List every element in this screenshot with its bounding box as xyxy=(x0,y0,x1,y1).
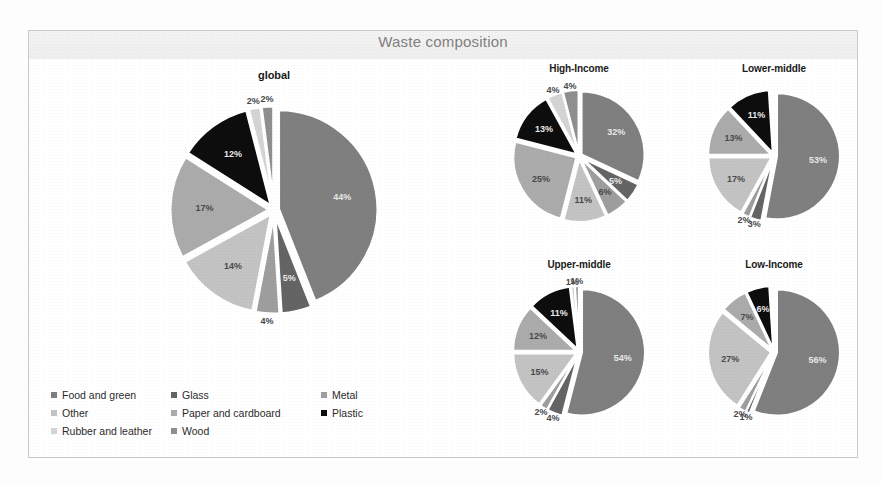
pie-panel-low-income: Low-Income 56%1%2%27%7%6% xyxy=(674,259,874,434)
pie-panel-upper-middle: Upper-middle 54%4%2%15%12%11%1%1% xyxy=(479,259,679,434)
legend-item[interactable]: Metal xyxy=(321,389,411,401)
legend-label: Metal xyxy=(332,389,358,401)
pie-slice-label: 17% xyxy=(727,174,745,184)
legend-item[interactable]: Plastic xyxy=(321,407,411,419)
legend-swatch-icon xyxy=(171,392,177,398)
pie-slice-label: 2% xyxy=(535,407,548,417)
pie-chart-global[interactable]: 44%5%4%14%17%12%2%2% xyxy=(129,81,419,339)
pie-svg: 54%4%2%15%12%11%1%1% xyxy=(497,270,661,434)
legend-swatch-icon xyxy=(51,410,57,416)
legend: Food and greenGlassMetalOtherPaper and c… xyxy=(51,389,421,437)
pie-panel-lower-middle: Lower-middle 53%3%2%17%13%11% xyxy=(674,63,874,238)
pie-slice-label: 25% xyxy=(532,174,550,184)
pie-slice-label: 14% xyxy=(224,261,242,271)
legend-item[interactable]: Paper and cardboard xyxy=(171,407,321,419)
pie-slice-label: 2% xyxy=(260,94,273,104)
pie-caption-upper-middle: Upper-middle xyxy=(479,259,679,270)
pie-slice-label: 5% xyxy=(283,273,296,283)
pie-panel-high-income: High-Income 32%5%6%11%25%13%4%4% xyxy=(479,63,679,238)
pie-panel-global: global 44%5%4%14%17%12%2%2% xyxy=(129,69,419,339)
pie-slice-label: 6% xyxy=(598,187,611,197)
pie-slice-label: 6% xyxy=(756,304,769,314)
legend-label: Wood xyxy=(182,425,209,437)
pie-slice-label: 1% xyxy=(570,276,583,286)
pie-slice-label: 13% xyxy=(535,124,553,134)
legend-swatch-icon xyxy=(171,410,177,416)
pie-slice-label: 53% xyxy=(809,155,827,165)
pie-caption-high-income: High-Income xyxy=(479,63,679,74)
pie-caption-low-income: Low-Income xyxy=(674,259,874,270)
pie-chart-high-income[interactable]: 32%5%6%11%25%13%4%4% xyxy=(479,74,679,238)
legend-item[interactable]: Other xyxy=(51,407,171,419)
pie-slice-label: 11% xyxy=(574,195,592,205)
pie-svg: 44%5%4%14%17%12%2%2% xyxy=(145,81,403,339)
pie-slice-label: 15% xyxy=(531,367,549,377)
pie-slice-label: 2% xyxy=(733,409,746,419)
pie-slice-label: 2% xyxy=(247,96,260,106)
pie-slice-label: 12% xyxy=(224,149,242,159)
pie-slice-label: 12% xyxy=(529,331,547,341)
pie-slice-label: 32% xyxy=(607,127,625,137)
legend-label: Glass xyxy=(182,389,209,401)
legend-swatch-icon xyxy=(321,410,327,416)
legend-item[interactable]: Rubber and leather xyxy=(51,425,171,437)
legend-label: Plastic xyxy=(332,407,363,419)
pie-slice-label: 2% xyxy=(737,215,750,225)
pie-caption-lower-middle: Lower-middle xyxy=(674,63,874,74)
pie-svg: 56%1%2%27%7%6% xyxy=(692,270,856,434)
legend-swatch-icon xyxy=(51,428,57,434)
pie-slice-label: 4% xyxy=(260,316,273,326)
legend-item[interactable]: Wood xyxy=(171,425,321,437)
legend-swatch-icon xyxy=(171,428,177,434)
pie-chart-low-income[interactable]: 56%1%2%27%7%6% xyxy=(674,270,874,434)
pie-slice-label: 4% xyxy=(546,85,559,95)
legend-label: Other xyxy=(62,407,88,419)
pie-svg: 32%5%6%11%25%13%4%4% xyxy=(497,74,661,238)
pie-slice-label: 54% xyxy=(614,353,632,363)
chart-frame: Waste composition global 44%5%4%14%17%12… xyxy=(28,30,858,458)
chart-title: Waste composition xyxy=(29,33,857,50)
legend-grid: Food and greenGlassMetalOtherPaper and c… xyxy=(51,389,421,437)
pie-slice-label: 13% xyxy=(724,133,742,143)
pie-slice-label: 5% xyxy=(609,176,622,186)
legend-label: Paper and cardboard xyxy=(182,407,281,419)
pie-slice-label: 11% xyxy=(550,308,568,318)
pie-slice-label: 7% xyxy=(740,312,753,322)
pie-slice-label: 44% xyxy=(333,192,351,202)
legend-item[interactable]: Glass xyxy=(171,389,321,401)
pie-chart-lower-middle[interactable]: 53%3%2%17%13%11% xyxy=(674,74,874,238)
legend-label: Food and green xyxy=(62,389,136,401)
legend-label: Rubber and leather xyxy=(62,425,152,437)
legend-item[interactable]: Food and green xyxy=(51,389,171,401)
pie-slice-label: 11% xyxy=(748,110,766,120)
pie-slice-label: 56% xyxy=(808,355,826,365)
pie-chart-upper-middle[interactable]: 54%4%2%15%12%11%1%1% xyxy=(479,270,679,434)
pie-slice-label: 27% xyxy=(721,354,739,364)
pie-slice-label: 17% xyxy=(195,203,213,213)
pie-slice[interactable] xyxy=(765,93,840,219)
pie-caption-global: global xyxy=(129,69,419,81)
legend-swatch-icon xyxy=(321,392,327,398)
legend-swatch-icon xyxy=(51,392,57,398)
pie-svg: 53%3%2%17%13%11% xyxy=(692,74,856,238)
pie-slice-label: 4% xyxy=(564,81,577,91)
pie-slice-label: 4% xyxy=(546,413,559,423)
